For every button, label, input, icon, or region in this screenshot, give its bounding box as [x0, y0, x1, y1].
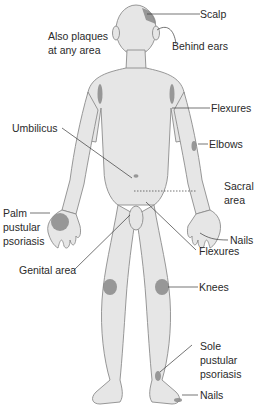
label-scalp: Scalp — [200, 8, 226, 20]
label-flexures-arm: Flexures — [211, 102, 251, 114]
label-sole-2: pustular — [200, 354, 237, 366]
label-sacral-2: area — [224, 194, 245, 206]
elbow-lesion — [192, 141, 197, 151]
flexure-lesion-right — [170, 84, 175, 104]
label-umbilicus: Umbilicus — [12, 122, 58, 134]
label-flexures-groin: Flexures — [199, 245, 239, 257]
label-also-plaques-1: Also plaques — [48, 30, 108, 42]
label-sole-3: psoriasis — [200, 368, 241, 380]
left-leg — [93, 205, 136, 404]
human-body-figure — [0, 0, 261, 405]
label-also-plaques-2: at any area — [48, 44, 101, 56]
flexure-lesion-left — [98, 84, 103, 104]
umbilicus-lesion — [134, 174, 139, 178]
label-palm-2: pustular — [3, 221, 40, 233]
label-behind-ears: Behind ears — [172, 40, 228, 52]
label-elbows: Elbows — [209, 138, 243, 150]
knee-lesion-right — [155, 279, 169, 295]
right-hand — [187, 210, 220, 248]
label-sacral-1: Sacral — [224, 180, 254, 192]
palm-lesion — [51, 213, 69, 231]
label-sole-1: Sole — [200, 340, 221, 352]
label-genital-area: Genital area — [19, 264, 76, 276]
label-palm-3: psoriasis — [3, 235, 44, 247]
label-palm-1: Palm — [3, 207, 27, 219]
sole-lesion — [155, 371, 161, 381]
label-nails-foot: Nails — [200, 389, 223, 401]
toenail-lesion — [174, 398, 182, 402]
label-knees: Knees — [199, 281, 229, 293]
psoriasis-distribution-diagram: Scalp Behind ears Also plaques at any ar… — [0, 0, 261, 405]
knee-lesion-left — [103, 279, 117, 295]
